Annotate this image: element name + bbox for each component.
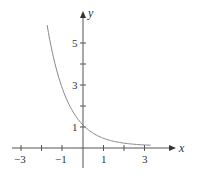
x-tick-label: −3	[14, 153, 26, 165]
x-tick-label: −1	[55, 153, 67, 165]
y-tick-label: 5	[72, 37, 78, 49]
x-tick-label: 3	[142, 153, 148, 165]
y-axis-arrow-icon	[80, 11, 86, 18]
y-tick-label: 1	[72, 121, 78, 133]
x-axis-label: x	[178, 141, 185, 155]
exponential-curve	[47, 25, 151, 145]
y-tick-label: 3	[72, 79, 78, 91]
x-tick-label: 1	[101, 153, 107, 165]
chart: x y −3 −1 1 3 1 3 5	[0, 0, 200, 176]
x-axis-arrow-icon	[169, 145, 176, 151]
y-axis-label: y	[87, 6, 94, 20]
